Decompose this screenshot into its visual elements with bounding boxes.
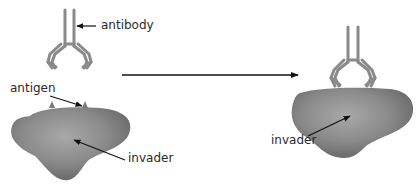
antibody-label: antibody xyxy=(101,19,154,31)
antigen-2 xyxy=(82,101,88,108)
antigen-label: antigen xyxy=(10,82,56,94)
antigen-pointer xyxy=(50,96,82,106)
antigen-1 xyxy=(49,101,55,108)
invader-right xyxy=(292,88,414,158)
antibody-free xyxy=(48,10,91,68)
invader-left xyxy=(11,107,130,180)
antibody-binding-diagram: antibody antigen invader invader xyxy=(0,0,417,184)
invader-right-label: invader xyxy=(271,134,316,146)
invader-left-label: invader xyxy=(128,152,173,164)
antibody-bound xyxy=(331,27,375,86)
